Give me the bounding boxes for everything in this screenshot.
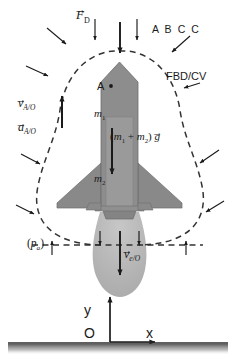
acceleration-A-label: →aA/O: [18, 121, 36, 133]
rocket-fbd-figure: →FD A B C C FBD/CV →vA/O →aA/O A m1 (m1 …: [0, 0, 235, 362]
abcc-label: A B C C: [152, 24, 201, 35]
drag-force-label: →FD: [76, 8, 90, 21]
x-axis-label: x: [146, 326, 153, 340]
velocity-A-label: →vA/O: [18, 97, 35, 109]
origin-label: O: [84, 326, 95, 340]
exhaust-velocity-label: →ve/O: [124, 248, 140, 260]
point-A-label: A: [97, 81, 104, 92]
ground: [8, 343, 228, 355]
weight-label: (m1 + m2) →g: [110, 131, 160, 142]
fbd-cv-label: FBD/CV: [166, 71, 206, 82]
point-A-marker: [109, 84, 113, 88]
mass-1-label: m1: [94, 108, 105, 119]
figure-canvas: [0, 0, 235, 362]
y-axis-label: y: [84, 303, 91, 317]
ambient-pressure-label: (pa): [27, 238, 44, 250]
mass-2-label: m2: [94, 173, 105, 184]
